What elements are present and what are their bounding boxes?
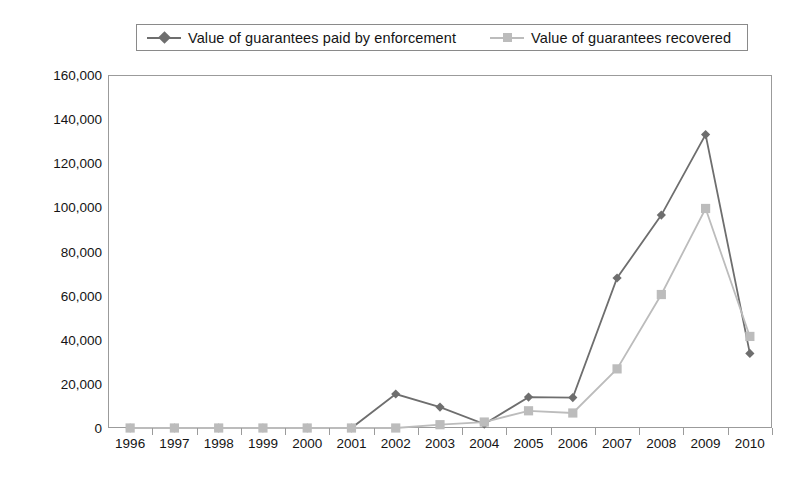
x-axis-tick-label: 1997 — [159, 436, 189, 451]
data-point-marker — [745, 349, 754, 358]
data-point-marker — [214, 423, 223, 432]
x-axis-tick-label: 2007 — [602, 436, 632, 451]
x-axis-tick-mark — [285, 428, 286, 435]
chart-container: Value of guarantees paid by enforcement … — [0, 0, 802, 482]
y-axis-tick-label: 120,000 — [10, 156, 102, 171]
x-axis-tick-mark — [152, 428, 153, 435]
legend-entry-paid-by-enforcement: Value of guarantees paid by enforcement — [147, 30, 456, 46]
x-axis-tick-mark — [639, 428, 640, 435]
data-point-marker — [258, 423, 267, 432]
data-point-marker — [303, 423, 312, 432]
data-point-marker — [612, 364, 621, 373]
x-axis-tick-mark — [506, 428, 507, 435]
x-axis-tick-mark — [728, 428, 729, 435]
chart-legend: Value of guarantees paid by enforcement … — [136, 24, 748, 51]
legend-square-2 — [503, 33, 512, 42]
legend-label-2: Value of guarantees recovered — [531, 30, 731, 46]
data-point-marker — [701, 204, 710, 213]
data-point-marker — [745, 332, 754, 341]
data-point-marker — [347, 423, 356, 432]
legend-diamond-1 — [158, 31, 171, 44]
y-axis-tick-label: 160,000 — [10, 68, 102, 83]
y-axis-tick-label: 140,000 — [10, 112, 102, 127]
x-axis-labels: 1996199719981999200020012002200320042005… — [108, 436, 772, 460]
y-axis-tick-label: 40,000 — [10, 332, 102, 347]
y-axis-tick-label: 80,000 — [10, 244, 102, 259]
x-axis-tick-mark — [462, 428, 463, 435]
series-layer — [108, 75, 772, 428]
series-line-1 — [130, 135, 750, 428]
y-axis-tick-label: 100,000 — [10, 200, 102, 215]
x-axis-tick-mark — [683, 428, 684, 435]
x-axis-tick-mark — [197, 428, 198, 435]
square-marker-icon — [490, 31, 524, 45]
data-point-marker — [524, 406, 533, 415]
y-axis-tick-label: 20,000 — [10, 376, 102, 391]
x-axis-tick-label: 2000 — [292, 436, 322, 451]
legend-label-1: Value of guarantees paid by enforcement — [188, 30, 456, 46]
data-point-marker — [391, 423, 400, 432]
x-axis-tick-label: 2010 — [735, 436, 765, 451]
y-axis-tick-label: 0 — [10, 421, 102, 436]
data-point-marker — [568, 393, 577, 402]
x-axis-tick-label: 2003 — [425, 436, 455, 451]
x-axis-tick-mark — [772, 428, 773, 435]
x-axis-tick-mark — [329, 428, 330, 435]
x-axis-tick-label: 1998 — [204, 436, 234, 451]
x-axis-tick-label: 2002 — [381, 436, 411, 451]
data-point-marker — [524, 393, 533, 402]
x-axis-tick-mark — [241, 428, 242, 435]
y-axis-tick-label: 60,000 — [10, 288, 102, 303]
series-line-2 — [130, 208, 750, 428]
x-axis-tick-label: 2006 — [558, 436, 588, 451]
data-point-marker — [435, 420, 444, 429]
x-axis-tick-mark — [551, 428, 552, 435]
x-axis-tick-mark — [595, 428, 596, 435]
data-point-marker — [435, 402, 444, 411]
x-axis-tick-label: 1996 — [115, 436, 145, 451]
data-point-marker — [170, 423, 179, 432]
x-axis-tick-label: 2004 — [469, 436, 499, 451]
x-axis-tick-mark — [374, 428, 375, 435]
x-axis-tick-label: 1999 — [248, 436, 278, 451]
data-point-marker — [568, 408, 577, 417]
diamond-marker-icon — [147, 31, 181, 45]
x-axis-tick-label: 2009 — [691, 436, 721, 451]
data-point-marker — [126, 423, 135, 432]
x-axis-tick-label: 2005 — [514, 436, 544, 451]
data-point-marker — [701, 130, 710, 139]
y-axis-labels: 020,00040,00060,00080,000100,000120,0001… — [8, 0, 102, 482]
x-axis-tick-label: 2001 — [336, 436, 366, 451]
data-point-marker — [480, 417, 489, 426]
x-axis-tick-mark — [418, 428, 419, 435]
x-axis-tick-label: 2008 — [646, 436, 676, 451]
data-point-marker — [657, 290, 666, 299]
legend-entry-recovered: Value of guarantees recovered — [490, 30, 731, 46]
